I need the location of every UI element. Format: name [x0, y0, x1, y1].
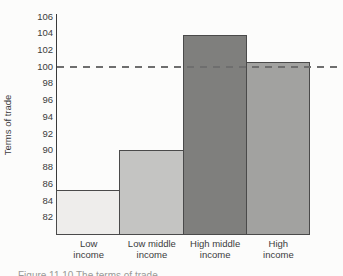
figure-terms-of-trade-bar-chart: Terms of trade 8284868890929496981001021…	[0, 0, 343, 276]
y-axis-tick-label: 92	[23, 129, 53, 139]
y-axis-tick-label: 84	[23, 196, 53, 206]
figure-caption-clipped: Figure 11.10 The terms of trade	[0, 269, 343, 276]
x-axis-category-label-line: High	[237, 239, 320, 250]
y-axis-title: Terms of trade	[2, 80, 16, 170]
reference-line-100	[57, 66, 338, 68]
y-axis-tick-label: 102	[23, 45, 53, 55]
y-axis-tick-label: 104	[23, 28, 53, 38]
bar-high-income	[246, 62, 310, 235]
bar-low-income	[56, 190, 120, 235]
bar-low-middle-income	[119, 150, 183, 235]
y-axis-tick-label: 94	[23, 112, 53, 122]
y-axis-tick-label: 100	[23, 62, 53, 72]
y-axis-tick-label: 96	[23, 95, 53, 105]
y-axis-tick-label: 90	[23, 145, 53, 155]
y-axis-tick-label: 106	[23, 12, 53, 22]
y-axis-tick-label: 82	[23, 212, 53, 222]
y-axis-tick-label: 98	[23, 78, 53, 88]
x-axis-category-label-line: income	[237, 250, 320, 261]
x-axis-category-label: Highincome	[237, 239, 320, 260]
y-axis-tick-label: 88	[23, 162, 53, 172]
figure-caption-text: Figure 11.10 The terms of trade	[0, 269, 343, 276]
y-axis-tick-label: 86	[23, 179, 53, 189]
